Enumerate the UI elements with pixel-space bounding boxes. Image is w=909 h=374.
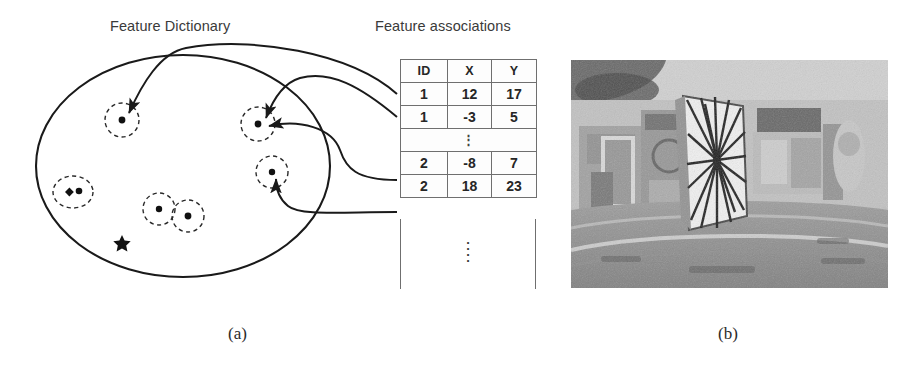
cell-id: 2 bbox=[401, 152, 448, 175]
table-row: 2 -8 7 bbox=[401, 152, 537, 175]
cell-x: 12 bbox=[448, 83, 492, 106]
caption-panel-b: (b) bbox=[718, 324, 738, 344]
feature-dot bbox=[156, 206, 162, 212]
feature-dot bbox=[76, 188, 83, 195]
table-continuation-area: . . . . bbox=[400, 219, 536, 289]
column-header-id: ID bbox=[401, 60, 448, 83]
feature-dot bbox=[119, 117, 126, 124]
landmark-star-marker bbox=[113, 235, 130, 252]
cell-x: 18 bbox=[448, 175, 492, 198]
cluster-bottom-a bbox=[143, 193, 175, 225]
cell-id: 2 bbox=[401, 175, 448, 198]
tail-dot: . bbox=[401, 255, 535, 261]
cluster-top-right bbox=[241, 107, 275, 141]
fisheye-room-photo bbox=[571, 60, 888, 288]
feature-dot bbox=[255, 121, 262, 128]
cell-x: -3 bbox=[448, 106, 492, 129]
cluster-top-left bbox=[105, 103, 139, 137]
table-row: 1 -3 5 bbox=[401, 106, 537, 129]
table-row: 2 18 23 bbox=[401, 175, 537, 198]
photo-haze bbox=[571, 60, 888, 288]
association-arrow-4 bbox=[276, 179, 397, 213]
cell-id: 1 bbox=[401, 106, 448, 129]
cell-id: 1 bbox=[401, 83, 448, 106]
dictionary-ellipse bbox=[36, 55, 330, 277]
table-tail-ellipsis: . . . . bbox=[401, 237, 535, 261]
table-row: 1 12 17 bbox=[401, 83, 537, 106]
table-ellipsis-cell: ⋮ bbox=[401, 129, 537, 152]
table-ellipsis-row: ⋮ bbox=[401, 129, 537, 152]
cell-y: 7 bbox=[492, 152, 537, 175]
cluster-left bbox=[53, 176, 93, 208]
feature-dot bbox=[269, 169, 275, 175]
figure-container: Feature Dictionary Feature associations bbox=[0, 0, 909, 374]
cell-y: 23 bbox=[492, 175, 537, 198]
cell-y: 5 bbox=[492, 106, 537, 129]
caption-panel-a: (a) bbox=[228, 324, 247, 344]
association-arrow-1 bbox=[129, 44, 397, 113]
photo-canvas bbox=[571, 60, 888, 288]
association-arrow-2 bbox=[266, 76, 397, 118]
cell-y: 17 bbox=[492, 83, 537, 106]
cluster-bottom-b bbox=[172, 200, 204, 232]
feature-associations-table: ID X Y 1 12 17 1 -3 5 ⋮ 2 bbox=[400, 59, 536, 198]
cell-x: -8 bbox=[448, 152, 492, 175]
table-header-row: ID X Y bbox=[401, 60, 537, 83]
column-header-y: Y bbox=[492, 60, 537, 83]
feature-dot-diamond bbox=[65, 188, 74, 197]
feature-dot bbox=[185, 213, 192, 220]
column-header-x: X bbox=[448, 60, 492, 83]
cluster-mid-right bbox=[256, 156, 288, 188]
